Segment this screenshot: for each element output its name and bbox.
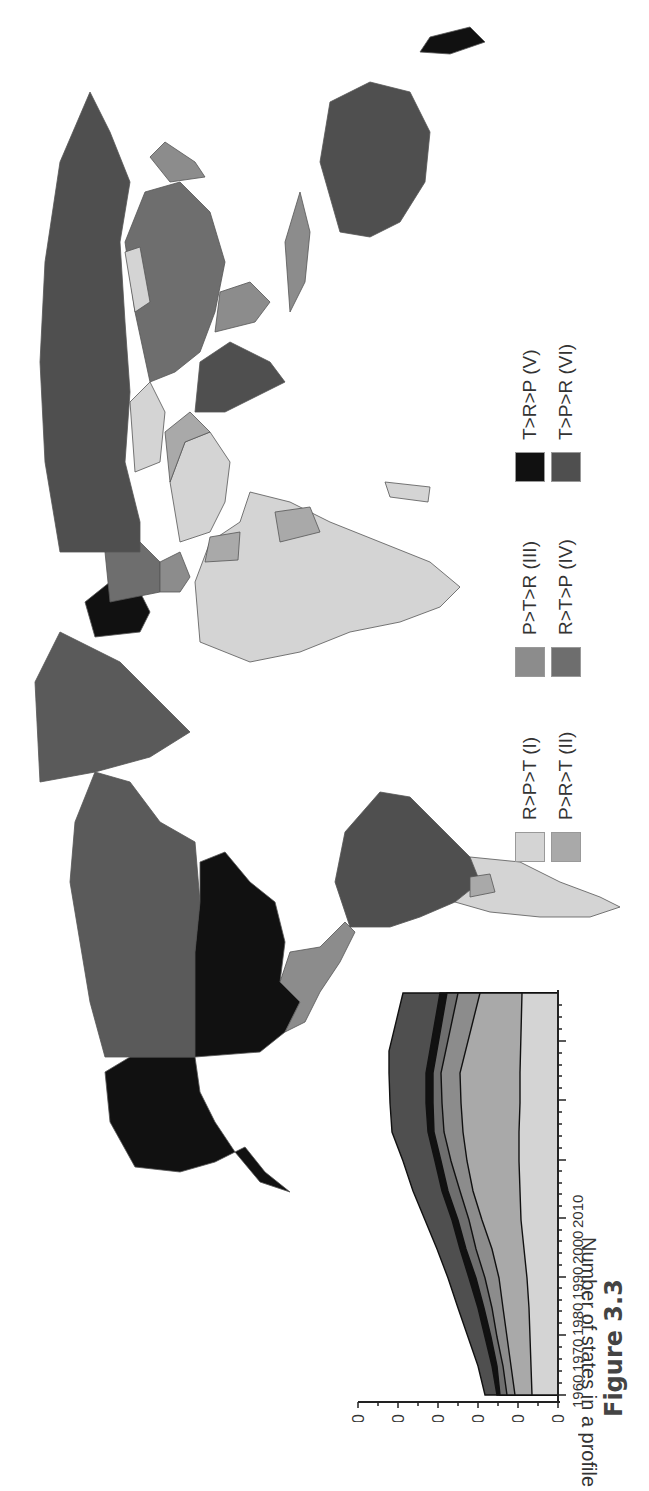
y-tick-0: 0 [549,1414,568,1422]
legend-item-2: P>R>T (II) [551,732,581,862]
legend-item-3: P>T>R (III) [515,541,545,677]
legend-swatch-icon [551,647,581,677]
legend-swatch-icon [515,832,545,862]
y-tick-200: 200 [389,1414,408,1422]
y-tick-100: 100 [469,1414,488,1422]
map-legend: R>P>T (I) P>R>T (II) P>T>R (III) R>T>P (… [515,162,595,862]
legend-swatch-icon [551,452,581,482]
legend-label: T>P>R (VI) [555,344,577,440]
y-tick-labels: 0 50 100 150 200 250 [349,1414,568,1422]
legend-item-5: T>R>P (V) [515,350,545,482]
legend-swatch-icon [515,452,545,482]
legend-swatch-icon [515,647,545,677]
legend-item-4: R>T>P (IV) [551,539,581,677]
chart-areas [389,993,558,1395]
legend-swatch-icon [551,832,581,862]
legend-item-6: T>P>R (VI) [551,344,581,482]
legend-label: R>P>T (I) [519,737,541,820]
y-tick-50: 50 [509,1414,528,1422]
legend-label: T>R>P (V) [519,350,541,440]
legend-label: P>R>T (II) [555,732,577,820]
legend-label: R>T>P (IV) [555,539,577,635]
legend-label: P>T>R (III) [519,541,541,635]
figure-label: Figure 3.3 [600,1279,628,1417]
legend-item-1: R>P>T (I) [515,737,545,862]
y-axis-label: Number of states in a profile [577,1102,600,1491]
y-tick-150: 150 [429,1414,448,1422]
y-tick-250: 250 [349,1414,368,1422]
x-ticks [558,1005,566,1395]
